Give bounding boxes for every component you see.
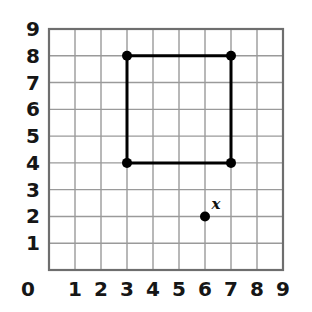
vertex-marker <box>122 51 132 61</box>
vertex-marker <box>226 51 236 61</box>
y-axis-tick-5: 5 <box>26 126 40 146</box>
x-axis-tick-4: 4 <box>146 279 160 299</box>
vertex-marker <box>122 158 132 168</box>
y-axis-tick-1: 1 <box>26 233 40 253</box>
x-axis-tick-1: 1 <box>68 279 82 299</box>
x-axis-tick-6: 6 <box>198 279 212 299</box>
x-axis-tick-7: 7 <box>224 279 238 299</box>
x-axis-tick-9: 9 <box>276 279 290 299</box>
y-axis-tick-3: 3 <box>26 180 40 200</box>
plot-background <box>49 29 283 270</box>
x-axis-tick-3: 3 <box>120 279 134 299</box>
y-axis-tick-7: 7 <box>26 73 40 93</box>
x-axis-tick-5: 5 <box>172 279 186 299</box>
point-label-x: x <box>212 197 221 212</box>
vertex-marker <box>226 158 236 168</box>
y-axis-tick-9: 9 <box>26 19 40 39</box>
y-axis-tick-2: 2 <box>26 206 40 226</box>
plot-area <box>0 0 312 312</box>
y-axis-tick-6: 6 <box>26 99 40 119</box>
coordinate-grid-figure: 1234567890123456789x <box>0 0 312 312</box>
data-point <box>200 211 210 221</box>
y-axis-tick-8: 8 <box>26 46 40 66</box>
x-axis-tick-2: 2 <box>94 279 108 299</box>
x-axis-tick-0: 0 <box>21 279 35 299</box>
x-axis-tick-8: 8 <box>250 279 264 299</box>
y-axis-tick-4: 4 <box>26 153 40 173</box>
